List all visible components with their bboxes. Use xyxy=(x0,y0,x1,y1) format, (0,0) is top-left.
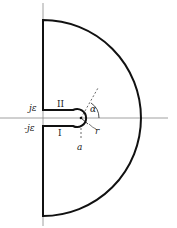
contour-diagram: jε -jε II I α r a xyxy=(0,0,177,228)
label-segment-ii: II xyxy=(57,99,65,109)
label-center-a: a xyxy=(77,142,82,152)
label-angle: α xyxy=(90,104,96,114)
label-segment-i: I xyxy=(58,128,62,138)
label-lower-offset: -jε xyxy=(24,123,35,133)
label-radius: r xyxy=(95,126,100,136)
label-upper-offset: jε xyxy=(27,103,37,113)
center-point-a xyxy=(80,117,83,120)
